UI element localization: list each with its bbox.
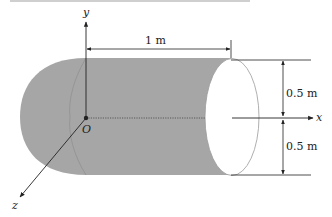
cylinder-diagram: y x z O 1 m 0.5 m 0.5 m [0,0,332,217]
cropped-caption-remnant [10,0,250,2]
x-axis-label: x [316,111,323,124]
upper-radius-label: 0.5 m [286,87,318,100]
origin-point [84,116,88,120]
lower-radius-label: 0.5 m [286,140,318,153]
y-axis-label: y [82,6,90,19]
length-label: 1 m [145,34,166,47]
cylinder-body [20,58,231,175]
origin-label: O [82,123,91,136]
end-face-ellipse [205,59,259,176]
z-axis-label: z [11,199,18,212]
